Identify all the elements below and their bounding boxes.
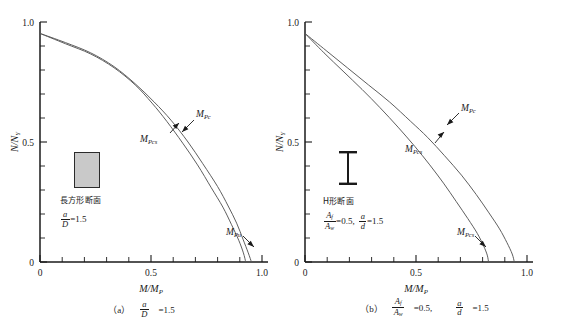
legend-eq-value-b-0: =0.5, xyxy=(336,215,355,229)
x-major-ticks-b xyxy=(305,255,527,262)
ytick-label-b-2: 1.0 xyxy=(287,18,299,28)
ytick-label-b-0: 0 xyxy=(294,258,299,268)
yaxis-title-a: N/NY xyxy=(9,131,21,153)
frac-af-aw: Af Aw xyxy=(324,211,336,232)
xaxis-title-b: M/MP xyxy=(403,283,428,295)
curve-label-mpc-a: MPc xyxy=(195,109,211,120)
legend-section-label-b: H形断面 xyxy=(323,196,383,208)
ytick-label-a-1: 0.5 xyxy=(22,138,34,148)
ytick-label-a-2: 1.0 xyxy=(22,18,34,28)
legend-eq-value-b-1: =1.5 xyxy=(367,215,383,229)
caption-a: （a） a D =1.5 xyxy=(0,301,283,319)
annotation-mpcs2-b xyxy=(475,236,486,247)
plot-a: MPc MPcs MPu 1.0 0.5 0 0 0.5 1.0 xyxy=(0,0,283,331)
x-major-ticks-a xyxy=(40,255,262,262)
frac-a-d: a D xyxy=(61,210,70,228)
rect-section-icon xyxy=(74,152,100,188)
xtick-label-a-0: 0 xyxy=(38,268,43,278)
xtick-label-b-1: 0.5 xyxy=(410,268,422,278)
ytick-label-b-1: 0.5 xyxy=(287,138,299,148)
caption-eq-b: Af Aw =0.5, a d =1.5 xyxy=(392,298,489,319)
annotation-mpc-b xyxy=(447,113,459,125)
i-beam-section-icon xyxy=(335,150,361,186)
xtick-label-a-2: 1.0 xyxy=(256,268,268,278)
legend-b: H形断面 Af Aw =0.5, a d =1.5 xyxy=(323,150,383,232)
caption-eq-value-b-1: =1.5 xyxy=(473,303,489,313)
caption-tag-b: （b） xyxy=(360,302,383,315)
caption-eq-value-b-0: =0.5, xyxy=(414,303,433,313)
legend-section-label-a: 長方形断面 xyxy=(60,195,101,207)
legend-eq-value-a: =1.5 xyxy=(70,213,86,227)
y-major-ticks-a xyxy=(40,22,47,262)
caption-tag-a: （a） xyxy=(108,303,130,316)
curve-label-mpcs-a: MPcs xyxy=(139,134,158,145)
xtick-label-b-0: 0 xyxy=(303,268,308,278)
legend-equation-b: Af Aw =0.5, a d =1.5 xyxy=(323,211,383,232)
figure-root: MPc MPcs MPu 1.0 0.5 0 0 0.5 1.0 xyxy=(0,0,566,331)
annotation-mpcs-b xyxy=(435,132,444,143)
legend-equation-a: a D =1.5 xyxy=(60,210,86,228)
panel-b: MPc MPcs MPcs 1.0 0.5 0 0 0.5 1.0 xyxy=(283,0,566,331)
y-major-ticks-b xyxy=(305,22,312,262)
xaxis-title-a: M/MP xyxy=(138,283,163,295)
annotation-mpu-a xyxy=(243,236,254,247)
ytick-label-a-0: 0 xyxy=(29,258,34,268)
caption-eq-a: a D =1.5 xyxy=(139,301,174,319)
curve-label-mpcs-b: MPcs xyxy=(404,144,423,155)
curve-label-mpcs2-b: MPcs xyxy=(456,227,475,238)
caption-b: （b） Af Aw =0.5, a d =1.5 xyxy=(283,298,566,319)
legend-a: 長方形断面 a D =1.5 xyxy=(60,152,101,229)
caption-eq-value-a: =1.5 xyxy=(158,305,174,315)
xtick-label-a-1: 0.5 xyxy=(145,268,157,278)
caption-frac-a: a D xyxy=(140,300,149,318)
panel-a: MPc MPcs MPu 1.0 0.5 0 0 0.5 1.0 xyxy=(0,0,283,331)
xtick-label-b-2: 1.0 xyxy=(521,268,533,278)
frac-a-d-b: a d xyxy=(359,212,366,230)
curve-label-mpc-b: MPc xyxy=(460,103,476,114)
caption-frac-b-0: Af Aw xyxy=(392,297,404,318)
annotation-mpc-a xyxy=(182,120,194,132)
caption-frac-b-1: a d xyxy=(456,299,463,317)
